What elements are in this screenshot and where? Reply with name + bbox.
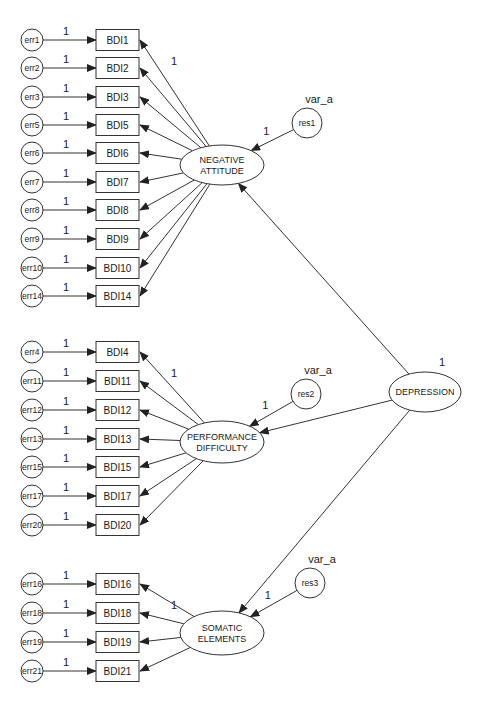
error-weight-label: 1 <box>63 337 69 349</box>
loading-path <box>140 352 204 423</box>
indicator-label: BDI1 <box>106 35 129 46</box>
factor-label-line2: DIFFICULTY <box>196 443 247 453</box>
error-weight-label: 1 <box>63 281 69 293</box>
error-weight-label: 1 <box>63 510 69 522</box>
error-weight-label: 1 <box>63 25 69 37</box>
loading-path <box>140 173 183 182</box>
loading-path <box>140 637 181 642</box>
error-node-label: err1 <box>24 35 39 45</box>
factor-label-line2: ATTITUDE <box>200 166 243 176</box>
loading-path <box>140 453 186 467</box>
first-loading-label: 1 <box>171 367 177 379</box>
error-node-label: err19 <box>22 637 42 647</box>
structural-path <box>238 183 409 374</box>
error-weight-label: 1 <box>63 627 69 639</box>
indicator-label: BDI6 <box>106 148 129 159</box>
error-node-label: err18 <box>22 608 42 618</box>
sem-diagram: 1err1BDI11err2BDI21err3BDI31err5BDI51err… <box>0 0 490 701</box>
error-node-label: err3 <box>24 92 39 102</box>
loading-path <box>140 613 184 624</box>
loading-path <box>140 647 190 671</box>
indicator-label: BDI7 <box>106 177 129 188</box>
error-weight-label: 1 <box>63 224 69 236</box>
error-weight-label: 1 <box>63 656 69 668</box>
first-loading-label: 1 <box>171 599 177 611</box>
error-weight-label: 1 <box>63 569 69 581</box>
error-weight-label: 1 <box>63 598 69 610</box>
indicator-label: BDI19 <box>104 637 132 648</box>
residual-weight-label: 1 <box>263 125 269 137</box>
residual-variance-label: var_a <box>304 364 332 376</box>
error-node-label: err4 <box>24 347 39 357</box>
error-node-label: err6 <box>24 148 39 158</box>
loading-path <box>140 184 207 268</box>
error-node-label: err14 <box>22 291 42 301</box>
indicator-label: BDI2 <box>106 63 129 74</box>
indicator-label: BDI5 <box>106 120 129 131</box>
loading-path <box>140 439 180 440</box>
indicator-label: BDI14 <box>104 291 132 302</box>
residual-label: res1 <box>299 118 316 128</box>
factor-na[interactable] <box>180 145 264 185</box>
error-node-label: err12 <box>22 405 42 415</box>
indicator-label: BDI12 <box>104 405 132 416</box>
residual-variance-label: var_a <box>308 553 336 565</box>
error-weight-label: 1 <box>63 395 69 407</box>
residual-path <box>250 401 293 426</box>
factor-label-line1: PERFORMANCE <box>187 432 257 442</box>
indicator-label: BDI10 <box>104 263 132 274</box>
residual-path <box>250 590 296 616</box>
error-weight-label: 1 <box>63 195 69 207</box>
indicator-label: BDI3 <box>106 92 129 103</box>
indicator-label: BDI20 <box>104 520 132 531</box>
error-node-label: err10 <box>22 263 42 273</box>
node-layer: 1err1BDI11err2BDI21err3BDI31err5BDI51err… <box>21 25 461 682</box>
factor-label-line2: ELEMENTS <box>198 634 247 644</box>
error-node-label: err21 <box>22 666 42 676</box>
error-node-label: err11 <box>22 376 41 386</box>
factor-label-line1: NEGATIVE <box>200 155 245 165</box>
depression-variance-label: 1 <box>439 356 445 368</box>
error-weight-label: 1 <box>63 82 69 94</box>
indicator-label: BDI17 <box>104 491 132 502</box>
loading-path <box>140 125 192 151</box>
factor-pd[interactable] <box>180 421 264 463</box>
error-weight-label: 1 <box>63 481 69 493</box>
loading-path <box>140 461 203 525</box>
error-node-label: err2 <box>24 63 39 73</box>
error-node-label: err8 <box>24 205 39 215</box>
indicator-label: BDI18 <box>104 608 132 619</box>
error-weight-label: 1 <box>63 366 69 378</box>
error-node-label: err15 <box>22 462 42 472</box>
error-weight-label: 1 <box>63 253 69 265</box>
error-weight-label: 1 <box>63 138 69 150</box>
indicator-label: BDI16 <box>104 579 132 590</box>
loading-path <box>140 184 210 296</box>
residual-weight-label: 1 <box>265 589 271 601</box>
error-weight-label: 1 <box>63 452 69 464</box>
error-node-label: err13 <box>22 434 42 444</box>
loading-path <box>140 153 182 159</box>
error-weight-label: 1 <box>63 53 69 65</box>
indicator-label: BDI11 <box>104 376 131 387</box>
indicator-label: BDI15 <box>104 462 132 473</box>
loading-path <box>140 381 198 425</box>
first-loading-label: 1 <box>171 55 177 67</box>
indicator-label: BDI21 <box>104 666 132 677</box>
indicator-label: BDI8 <box>106 205 129 216</box>
factor-se[interactable] <box>180 611 264 655</box>
loading-path <box>140 68 206 146</box>
residual-label: res3 <box>302 578 319 588</box>
error-node-label: err7 <box>24 177 39 187</box>
loading-path <box>140 180 194 210</box>
depression-label: DEPRESSION <box>395 387 454 397</box>
residual-weight-label: 1 <box>262 399 268 411</box>
residual-variance-label: var_a <box>305 93 333 105</box>
loading-path <box>140 584 194 617</box>
error-weight-label: 1 <box>63 167 69 179</box>
error-node-label: err5 <box>24 120 39 130</box>
error-node-label: err17 <box>22 491 42 501</box>
residual-path <box>251 130 293 151</box>
factor-label-line1: SOMATIC <box>202 623 243 633</box>
indicator-label: BDI13 <box>104 434 132 445</box>
